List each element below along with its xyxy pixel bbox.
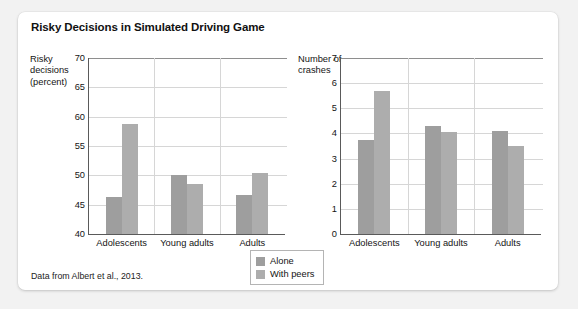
bar-alone xyxy=(171,175,187,234)
left-y-axis-title-line-1: Risky xyxy=(30,54,69,65)
bar-with-peers xyxy=(252,173,268,234)
bar-group: Adolescents xyxy=(89,58,154,234)
bar-group: Young adults xyxy=(408,58,475,234)
x-axis-tick-label: Young adults xyxy=(414,238,467,248)
y-axis-tick-label: 6 xyxy=(332,78,337,88)
y-axis-tick-label: 1 xyxy=(332,204,337,214)
right-plot-area: 01234567AdolescentsYoung adultsAdults xyxy=(340,58,541,235)
figure-title: Risky Decisions in Simulated Driving Gam… xyxy=(31,21,265,33)
y-axis-tick-label: 70 xyxy=(75,53,85,63)
x-axis-tick-label: Young adults xyxy=(160,238,213,248)
legend-item-alone: Alone xyxy=(256,255,314,267)
bar-with-peers xyxy=(374,91,390,234)
y-axis-tick-label: 55 xyxy=(75,141,85,151)
bar-alone xyxy=(358,140,374,234)
legend-label-alone: Alone xyxy=(270,256,294,266)
bar-group: Adults xyxy=(474,58,541,234)
figure-card: Risky Decisions in Simulated Driving Gam… xyxy=(18,12,558,290)
chart-panel-number-of-crashes: Number of crashes 01234567AdolescentsYou… xyxy=(290,42,552,242)
bar-group: Adolescents xyxy=(341,58,408,234)
x-axis-tick-label: Adults xyxy=(239,238,265,248)
bar-with-peers xyxy=(508,146,524,234)
left-y-axis-title-line-3: (percent) xyxy=(30,77,69,88)
bar-alone xyxy=(236,195,252,234)
left-plot-area: 40455055606570AdolescentsYoung adultsAdu… xyxy=(88,58,285,235)
right-y-axis-title-line-2: crashes xyxy=(298,65,341,76)
y-axis-tick-label: 50 xyxy=(75,170,85,180)
bar-alone xyxy=(425,126,441,234)
bar-with-peers xyxy=(441,132,457,234)
chart-panel-risky-decisions: Risky decisions (percent) 40455055606570… xyxy=(24,42,292,242)
y-axis-tick-label: 45 xyxy=(75,200,85,210)
legend-swatch-with-peers-icon xyxy=(256,270,265,279)
bar-with-peers xyxy=(187,184,203,234)
y-axis-tick-label: 0 xyxy=(332,229,337,239)
bar-group: Young adults xyxy=(154,58,219,234)
legend-swatch-alone-icon xyxy=(256,257,265,266)
legend-item-with-peers: With peers xyxy=(256,268,314,280)
y-axis-tick-label: 60 xyxy=(75,112,85,122)
left-y-axis-title: Risky decisions (percent) xyxy=(30,54,69,88)
y-axis-tick-label: 4 xyxy=(332,128,337,138)
y-axis-tick-label: 3 xyxy=(332,154,337,164)
x-axis-tick-label: Adolescents xyxy=(349,238,400,248)
left-y-axis-title-line-2: decisions xyxy=(30,65,69,76)
x-axis-tick-label: Adolescents xyxy=(96,238,147,248)
y-axis-tick-label: 7 xyxy=(332,53,337,63)
bar-alone xyxy=(492,131,508,234)
y-axis-tick-label: 2 xyxy=(332,179,337,189)
y-axis-tick-label: 5 xyxy=(332,103,337,113)
bar-group: Adults xyxy=(220,58,285,234)
y-axis-tick-label: 40 xyxy=(75,229,85,239)
legend: Alone With peers xyxy=(250,250,324,285)
y-axis-tick-label: 65 xyxy=(75,82,85,92)
bar-with-peers xyxy=(122,124,138,234)
legend-label-with-peers: With peers xyxy=(270,269,314,279)
bar-alone xyxy=(106,197,122,234)
x-axis-tick-label: Adults xyxy=(495,238,521,248)
source-note: Data from Albert et al., 2013. xyxy=(31,271,143,281)
